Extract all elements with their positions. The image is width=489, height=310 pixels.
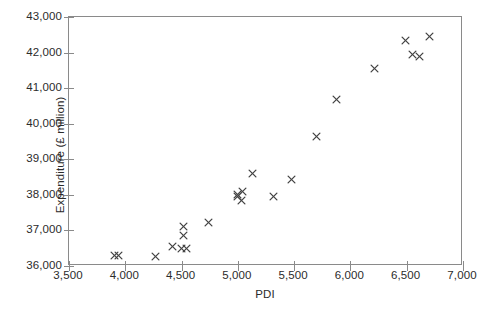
data-point (312, 132, 321, 141)
plot-area (68, 16, 462, 265)
data-point (287, 175, 296, 184)
y-tick-label: 41,000 (26, 81, 62, 93)
data-point (151, 252, 160, 261)
x-axis-tick-labels: 3,5004,0004,5005,0005,5006,0006,5007,000 (68, 269, 462, 285)
x-tick-label: 4,000 (110, 269, 139, 281)
data-point (233, 192, 242, 201)
x-axis-title: PDI (68, 288, 462, 300)
x-tick-label: 3,500 (53, 269, 82, 281)
data-point (114, 251, 123, 260)
data-point (401, 36, 410, 45)
data-point-layer (69, 17, 461, 264)
y-tick-label: 37,000 (26, 223, 62, 235)
data-point (248, 169, 257, 178)
data-point (168, 242, 177, 251)
data-point (179, 231, 188, 240)
x-tick-label: 4,500 (166, 269, 195, 281)
x-tick-label: 6,500 (391, 269, 420, 281)
data-point (179, 222, 188, 231)
data-point (182, 244, 191, 253)
scatter-chart-figure: Expenditure (£ million) 36,00037,00038,0… (0, 0, 489, 310)
data-point (110, 251, 119, 260)
y-tick-label: 39,000 (26, 152, 62, 164)
data-point (238, 187, 247, 196)
y-tick-label: 42,000 (26, 46, 62, 58)
x-tick-label: 7,000 (447, 269, 476, 281)
data-point (233, 190, 242, 199)
x-tick-mark-inner (463, 261, 464, 266)
data-point (237, 196, 246, 205)
x-tick-label: 6,000 (335, 269, 364, 281)
data-point (204, 218, 213, 227)
x-tick-label: 5,500 (279, 269, 308, 281)
data-point (177, 244, 186, 253)
y-tick-label: 38,000 (26, 188, 62, 200)
data-point (425, 32, 434, 41)
data-point (415, 52, 424, 61)
data-point (269, 192, 278, 201)
data-point (408, 50, 417, 59)
y-axis-tick-labels: 36,00037,00038,00039,00040,00041,00042,0… (0, 16, 62, 265)
data-point (370, 64, 379, 73)
x-tick-label: 5,000 (222, 269, 251, 281)
y-tick-label: 43,000 (26, 10, 62, 22)
y-tick-label: 40,000 (26, 117, 62, 129)
data-point (332, 95, 341, 104)
